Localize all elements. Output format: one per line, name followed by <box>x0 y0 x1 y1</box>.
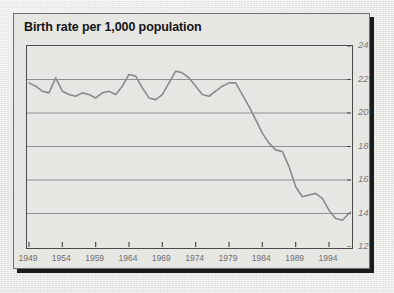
x-axis-tick-label: 1959 <box>80 253 110 263</box>
x-axis-tick-label: 1989 <box>280 253 310 263</box>
x-axis-tick-label: 1964 <box>113 253 143 263</box>
y-axis-tick-label: 12 <box>358 240 378 251</box>
line-chart-svg <box>27 46 351 247</box>
x-axis-tick-label: 1994 <box>313 253 343 263</box>
x-axis-tick-label: 1954 <box>46 253 76 263</box>
data-line-series-0 <box>29 71 351 220</box>
chart-figure-frame: Birth rate per 1,000 population 24222018… <box>13 13 370 269</box>
y-axis-tick-label: 16 <box>358 173 378 184</box>
x-axis-tick-label: 1974 <box>180 253 210 263</box>
y-axis-tick-label: 14 <box>358 207 378 218</box>
x-axis-tick-label: 1949 <box>13 253 43 263</box>
y-axis-tick-label: 22 <box>358 73 378 84</box>
page-title: Birth rate per 1,000 population <box>24 20 202 34</box>
x-axis-tick-label: 1984 <box>246 253 276 263</box>
x-axis-tick-label: 1979 <box>213 253 243 263</box>
plot-area <box>26 45 353 249</box>
y-axis-tick-label: 20 <box>358 106 378 117</box>
y-axis-tick-label: 24 <box>358 39 378 50</box>
y-axis-tick-label: 18 <box>358 140 378 151</box>
x-axis-tick-label: 1969 <box>146 253 176 263</box>
